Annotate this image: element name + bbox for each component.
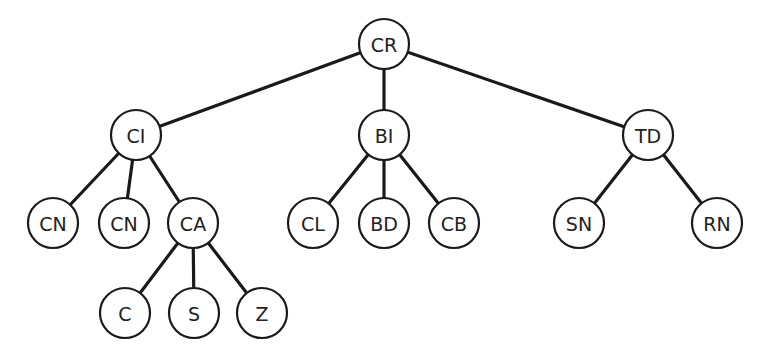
edge-cr-td	[384, 44, 648, 135]
edge-cr-ci	[136, 44, 384, 135]
node-label: CL	[301, 213, 325, 235]
node-label: BD	[370, 213, 398, 235]
node-cn2: CN	[99, 198, 149, 248]
node-label: C	[118, 303, 131, 325]
node-label: CA	[180, 213, 206, 235]
node-z: Z	[237, 288, 287, 338]
node-cl: CL	[288, 198, 338, 248]
node-label: BI	[375, 125, 394, 147]
node-label: SN	[566, 213, 592, 235]
tree-diagram: CRCIBITDCNCNCACLBDCBSNRNCSZ	[0, 0, 767, 358]
node-ca: CA	[168, 198, 218, 248]
node-bd: BD	[359, 198, 409, 248]
node-label: S	[188, 303, 200, 325]
node-bi: BI	[359, 110, 409, 160]
node-label: Z	[255, 303, 268, 325]
node-cn1: CN	[28, 198, 78, 248]
node-label: TD	[634, 125, 661, 147]
edges	[53, 44, 717, 313]
node-label: CI	[127, 125, 146, 147]
node-label: CR	[371, 34, 397, 56]
node-ci: CI	[111, 110, 161, 160]
node-rn: RN	[692, 198, 742, 248]
node-cr: CR	[359, 19, 409, 69]
node-s: S	[169, 288, 219, 338]
node-label: CB	[441, 213, 467, 235]
node-label: CN	[110, 213, 137, 235]
node-sn: SN	[554, 198, 604, 248]
node-cb: CB	[429, 198, 479, 248]
node-label: RN	[703, 213, 730, 235]
node-c: C	[100, 288, 150, 338]
node-td: TD	[623, 110, 673, 160]
node-label: CN	[39, 213, 66, 235]
